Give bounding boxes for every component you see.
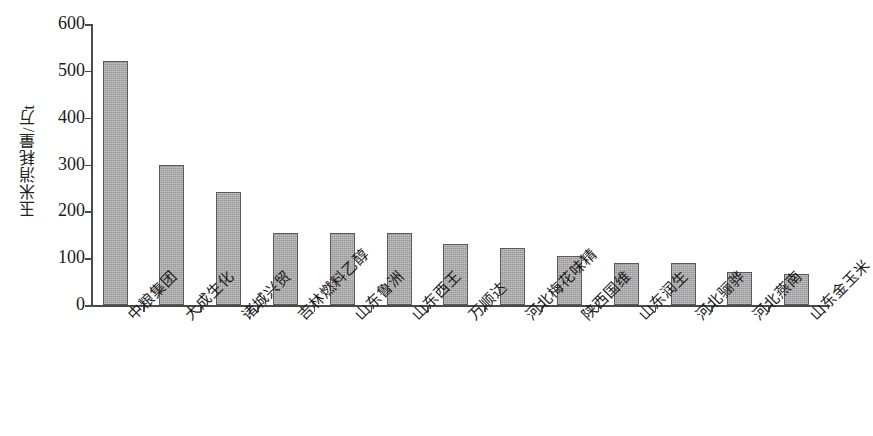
y-axis-tick-mark <box>85 24 91 26</box>
y-axis-tick-mark <box>85 258 91 260</box>
y-axis-line <box>91 24 93 306</box>
y-axis-tick-mark <box>85 165 91 167</box>
y-axis-title: 玉米消耗量/万t <box>14 60 44 260</box>
y-axis-tick-label: 0 <box>76 294 85 314</box>
y-axis-tick-label: 100 <box>58 247 85 267</box>
y-axis-title-text: 玉米消耗量/万t <box>17 104 41 217</box>
y-axis-tick-mark <box>85 211 91 213</box>
y-axis-tick-label: 600 <box>58 13 85 33</box>
y-axis-tick-mark <box>85 71 91 73</box>
y-axis-tick-label: 500 <box>58 60 85 80</box>
y-axis-tick-mark <box>85 118 91 120</box>
x-axis-category-labels: 中粮集团大成生化诸城兴贸吉林燃料乙醇山东鲁洲山东西王万顺达河北梅花味精陕西国维山… <box>91 306 851 436</box>
plot-area: 0100200300400500600 <box>91 18 831 306</box>
y-axis-tick-label: 400 <box>58 107 85 127</box>
y-axis-tick-label: 200 <box>58 200 85 220</box>
y-axis-tick-label: 300 <box>58 154 85 174</box>
bar <box>103 61 128 305</box>
